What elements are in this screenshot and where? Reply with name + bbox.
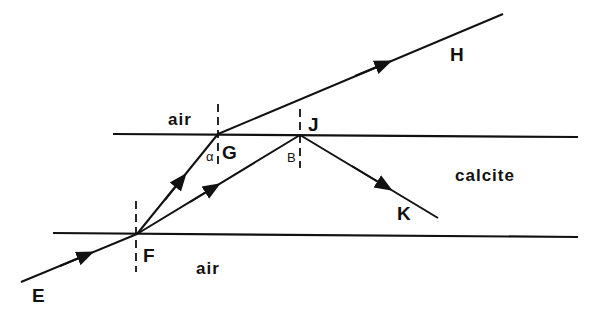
angle-beta: B (287, 150, 296, 165)
label-g: G (222, 142, 237, 163)
label-air-bottom: air (196, 259, 220, 278)
arrow-f-j (190, 188, 213, 202)
arrow-f-g (165, 180, 181, 200)
arrow-g-h (355, 64, 384, 76)
arrow-j-k (352, 166, 385, 186)
calcite-refraction-diagram: E F G J H K α B air calcite air (0, 0, 594, 319)
label-calcite: calcite (455, 166, 515, 185)
label-f: F (143, 245, 155, 266)
arrow-e-f (60, 255, 86, 266)
label-air-top: air (168, 110, 192, 129)
diagram-svg: E F G J H K α B air calcite air (0, 0, 594, 319)
label-h: H (450, 44, 464, 65)
label-e: E (32, 285, 45, 306)
upper-boundary-line (113, 134, 578, 137)
label-j: J (308, 114, 319, 135)
angle-alpha: α (206, 149, 214, 164)
label-k: K (397, 203, 411, 224)
